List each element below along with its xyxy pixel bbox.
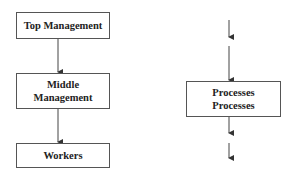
box-label-line-1: Processes: [212, 86, 254, 99]
middle-management-box: Middle Management: [16, 73, 110, 109]
workers-box: Workers: [16, 143, 110, 168]
box-label: Top Management: [24, 19, 103, 32]
box-label-line-1: Middle: [47, 78, 79, 91]
box-label-line-2: Processes: [212, 99, 254, 112]
box-label: Workers: [43, 149, 82, 162]
box-label-line-2: Management: [34, 91, 93, 104]
top-management-box: Top Management: [16, 12, 110, 39]
processes-box: Processes Processes: [186, 81, 281, 117]
